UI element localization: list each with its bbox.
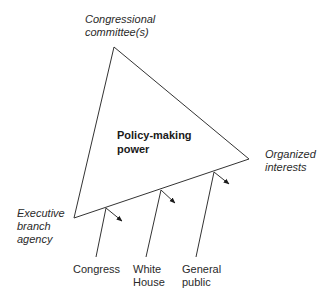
vertex-right-line2: interests (265, 161, 316, 174)
vertex-left-line1: Executive (17, 207, 65, 220)
white-house-influence-line (146, 190, 161, 257)
white-house-influence-arrow (161, 190, 175, 203)
congress-influence-line (96, 208, 106, 257)
vertex-left-line3: agency (17, 233, 65, 246)
influence-white-house-line2: House (133, 276, 165, 289)
vertex-top-line1: Congressional (85, 13, 155, 26)
influence-label-white-house: White House (133, 263, 165, 289)
vertex-right-line1: Organized (265, 148, 316, 161)
vertex-left-line2: branch (17, 220, 65, 233)
general-public-influence-arrow (214, 172, 229, 184)
influence-general-public-line1: General (182, 263, 221, 276)
vertex-label-organized-interests: Organized interests (265, 148, 316, 174)
influence-congress-line1: Congress (73, 263, 120, 276)
center-label-line1: Policy-making (117, 128, 192, 142)
vertex-label-executive-branch-agency: Executive branch agency (17, 207, 65, 246)
center-label-line2: power (117, 142, 192, 156)
general-public-influence-line (196, 172, 214, 257)
influence-general-public-line2: public (182, 276, 221, 289)
vertex-label-congressional-committees: Congressional committee(s) (85, 13, 155, 39)
diagram-canvas: Policy-making power Congressional commit… (0, 0, 323, 299)
vertex-top-line2: committee(s) (85, 26, 155, 39)
center-label: Policy-making power (117, 128, 192, 156)
congress-influence-arrow (106, 208, 122, 221)
influence-white-house-line1: White (133, 263, 165, 276)
influence-label-congress: Congress (73, 263, 120, 276)
influence-label-general-public: General public (182, 263, 221, 289)
